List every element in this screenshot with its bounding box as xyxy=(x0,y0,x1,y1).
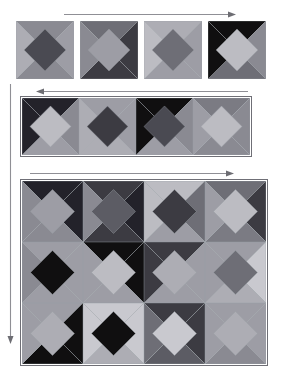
row1-tile-4 xyxy=(208,21,266,79)
row3-tile-r3c1 xyxy=(22,303,83,364)
row1-tile-3 xyxy=(144,21,202,79)
tile-g-r1c4 xyxy=(205,181,266,242)
middle-arrow-head xyxy=(36,89,44,95)
row3-tile-r1c1 xyxy=(22,181,83,242)
row1-tile-2 xyxy=(80,21,138,79)
row2-tile-3 xyxy=(136,98,193,155)
row3-tile-r3c4 xyxy=(205,303,266,364)
top-arrow-head xyxy=(228,12,236,18)
row3-tile-r3c3 xyxy=(144,303,205,364)
tile-r1c2 xyxy=(80,21,138,79)
row1-tile-1 xyxy=(16,21,74,79)
tile-g-r1c1 xyxy=(22,181,83,242)
tile-g-r3c3 xyxy=(144,303,205,364)
tile-g-r2c4 xyxy=(205,242,266,303)
row3-tile-r1c4 xyxy=(205,181,266,242)
tile-g-r1c2 xyxy=(83,181,144,242)
tile-g-r2c2 xyxy=(83,242,144,303)
row2-tile-4 xyxy=(193,98,250,155)
tile-g-r2c1 xyxy=(22,242,83,303)
tile-r1c4 xyxy=(208,21,266,79)
row3-tile-r2c2 xyxy=(83,242,144,303)
row3-tile-r2c1 xyxy=(22,242,83,303)
tile-g-r3c4 xyxy=(205,303,266,364)
left-arrow xyxy=(6,84,15,344)
bottom-arrow-head xyxy=(226,171,234,177)
tile-r2c4 xyxy=(193,98,250,155)
tile-g-r2c3 xyxy=(144,242,205,303)
row3-tile-r3c2 xyxy=(83,303,144,364)
row2-tile-2 xyxy=(79,98,136,155)
row3-tile-r1c2 xyxy=(83,181,144,242)
row3-tile-r1c3 xyxy=(144,181,205,242)
row3-tile-r2c4 xyxy=(205,242,266,303)
bottom-arrow xyxy=(30,169,234,178)
tile-r1c3 xyxy=(144,21,202,79)
tile-r2c3 xyxy=(136,98,193,155)
tile-g-r3c1 xyxy=(22,303,83,364)
top-arrow xyxy=(64,10,236,19)
tile-r1c1 xyxy=(16,21,74,79)
tile-r2c1 xyxy=(22,98,79,155)
tile-r2c2 xyxy=(79,98,136,155)
row3-tile-r2c3 xyxy=(144,242,205,303)
tile-g-r3c2 xyxy=(83,303,144,364)
tile-g-r1c3 xyxy=(144,181,205,242)
middle-arrow xyxy=(36,87,248,96)
left-arrow-head xyxy=(8,336,14,344)
row2-tile-1 xyxy=(22,98,79,155)
